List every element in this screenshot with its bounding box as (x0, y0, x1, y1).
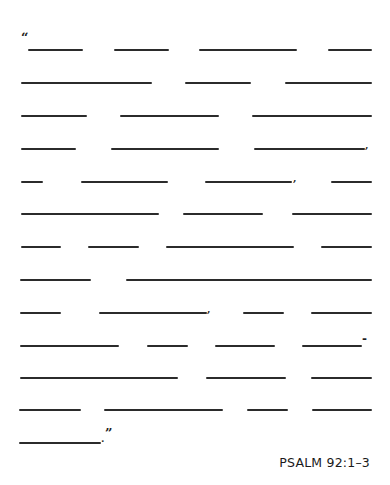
answer-blank[interactable] (254, 148, 365, 150)
answer-blank[interactable] (81, 181, 168, 183)
answer-blank[interactable] (147, 345, 188, 347)
comma-mark: , (207, 304, 210, 314)
answer-blank[interactable] (321, 246, 372, 248)
answer-blank[interactable] (21, 246, 61, 248)
answer-blank[interactable] (21, 181, 43, 183)
answer-blank[interactable] (183, 213, 263, 215)
answer-blank[interactable] (19, 442, 101, 444)
period-mark: . (101, 434, 104, 444)
answer-blank[interactable] (292, 213, 372, 215)
answer-blank[interactable] (120, 115, 219, 117)
answer-blank[interactable] (21, 213, 159, 215)
answer-blank[interactable] (215, 345, 275, 347)
answer-blank[interactable] (126, 279, 372, 281)
answer-blank[interactable] (28, 49, 83, 51)
answer-blank[interactable] (205, 181, 292, 183)
answer-blank[interactable] (21, 82, 152, 84)
hyphen-mark: - (362, 333, 367, 345)
answer-blank[interactable] (285, 82, 372, 84)
answer-blank[interactable] (247, 409, 288, 411)
comma-mark: , (293, 173, 296, 183)
closing-quote-mark: ” (105, 427, 112, 440)
answer-blank[interactable] (20, 312, 61, 314)
opening-quote-mark: “ (21, 31, 28, 44)
answer-blank[interactable] (114, 49, 169, 51)
answer-blank[interactable] (21, 115, 87, 117)
answer-blank[interactable] (166, 246, 294, 248)
answer-blank[interactable] (252, 115, 372, 117)
answer-blank[interactable] (88, 246, 139, 248)
answer-blank[interactable] (311, 377, 372, 379)
answer-blank[interactable] (19, 409, 81, 411)
answer-blank[interactable] (185, 82, 251, 84)
answer-blank[interactable] (311, 312, 372, 314)
answer-blank[interactable] (328, 49, 372, 51)
answer-blank[interactable] (199, 49, 297, 51)
memory-verse-worksheet: “,,,-.” (0, 0, 390, 485)
answer-blank[interactable] (206, 377, 286, 379)
comma-mark: , (365, 140, 368, 150)
answer-blank[interactable] (312, 409, 372, 411)
answer-blank[interactable] (331, 181, 372, 183)
answer-blank[interactable] (99, 312, 207, 314)
answer-blank[interactable] (111, 148, 219, 150)
answer-blank[interactable] (243, 312, 284, 314)
answer-blank[interactable] (20, 279, 91, 281)
answer-blank[interactable] (302, 345, 362, 347)
answer-blank[interactable] (20, 345, 119, 347)
answer-blank[interactable] (104, 409, 223, 411)
answer-blank[interactable] (20, 377, 178, 379)
answer-blank[interactable] (21, 148, 76, 150)
scripture-reference: PSALM 92:1–3 (270, 455, 370, 470)
